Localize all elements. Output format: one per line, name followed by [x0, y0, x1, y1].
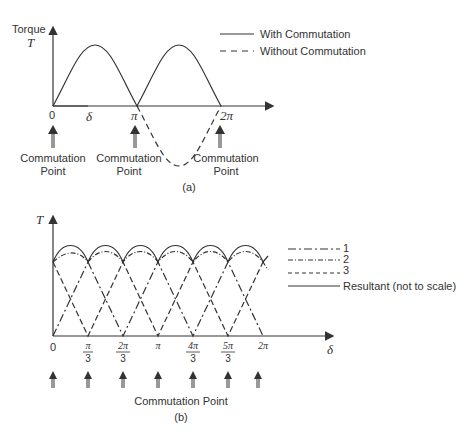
- tick-labels: 0 π 3 2π 3 π 4π 3 5π 3 2π: [50, 340, 269, 364]
- y-axis-label: T: [36, 212, 44, 227]
- phase-1-curve: [53, 262, 263, 336]
- phase-3-curve: [53, 262, 263, 336]
- commutation-label: Commutation: [193, 152, 258, 164]
- commutation-label: Commutation: [96, 152, 161, 164]
- legend-b: 1 2 3 Resultant (not to scale): [288, 242, 456, 292]
- commutation-arrow: [48, 125, 58, 148]
- commutation-arrow: [215, 125, 225, 148]
- x-axis-label: δ: [86, 109, 93, 124]
- legend-with-commutation: With Commutation: [260, 28, 350, 40]
- tick-2pi: 2π: [220, 108, 234, 123]
- svg-text:3: 3: [120, 353, 126, 364]
- svg-text:4π: 4π: [188, 340, 199, 351]
- svg-text:Point: Point: [213, 165, 238, 177]
- svg-text:3: 3: [343, 264, 349, 276]
- svg-text:3: 3: [190, 353, 196, 364]
- tick-pi: π: [131, 108, 138, 123]
- svg-text:Point: Point: [116, 165, 141, 177]
- y-axis-label: Torque: [12, 23, 46, 35]
- svg-text:3: 3: [225, 353, 231, 364]
- svg-text:π: π: [155, 340, 161, 351]
- tick-0: 0: [49, 109, 55, 121]
- caption-b: (b): [174, 411, 187, 423]
- y-axis-symbol: T: [27, 35, 35, 50]
- diagram-b: T δ 0 π 3 2π 3 π 4π 3 5π 3 2π: [36, 212, 456, 423]
- diagram-a: Torque T δ 0 π 2π Commutation Point Comm…: [12, 23, 366, 193]
- svg-text:Point: Point: [40, 165, 65, 177]
- svg-text:3: 3: [85, 353, 91, 364]
- commutation-diagram: Torque T δ 0 π 2π Commutation Point Comm…: [0, 0, 468, 438]
- svg-text:0: 0: [50, 341, 56, 353]
- svg-text:5π: 5π: [223, 340, 234, 351]
- svg-text:2π: 2π: [118, 340, 129, 351]
- svg-text:Resultant (not to scale): Resultant (not to scale): [343, 280, 456, 292]
- commutation-arrows: [49, 371, 262, 388]
- svg-text:π: π: [85, 340, 91, 351]
- legend-a: With Commutation Without Commutation: [220, 28, 366, 57]
- x-axis-label: δ: [327, 342, 334, 357]
- commutation-arrow: [130, 125, 140, 148]
- with-commutation-curve: [53, 45, 221, 106]
- commutation-label: Commutation Point: [134, 395, 228, 407]
- commutation-label: Commutation: [20, 152, 85, 164]
- legend-without-commutation: Without Commutation: [260, 45, 366, 57]
- svg-text:2π: 2π: [258, 340, 269, 351]
- caption-a: (a): [182, 181, 195, 193]
